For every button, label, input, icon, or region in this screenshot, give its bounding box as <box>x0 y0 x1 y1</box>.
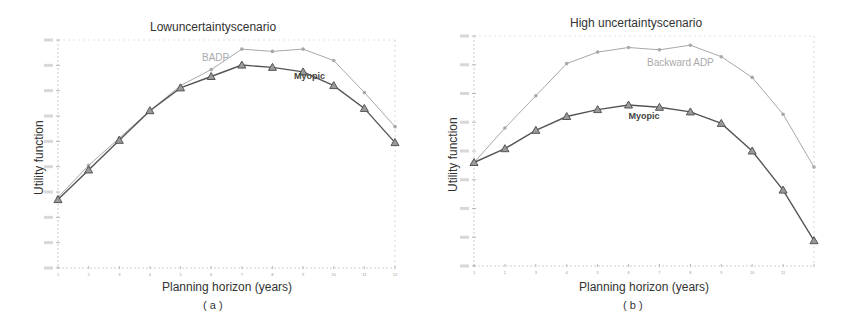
y-tick-label <box>460 236 469 239</box>
x-tick-label: 6 <box>210 272 213 277</box>
x-tick-label: 4 <box>149 272 152 277</box>
triangle-marker-icon <box>810 237 818 244</box>
y-tick-label <box>460 63 469 66</box>
dot-marker-icon <box>596 50 600 54</box>
dot-marker-icon <box>240 47 244 51</box>
panel-caption: ( a ) <box>203 299 223 311</box>
plot-area: 1234567891011Backward ADPMyopic <box>420 0 846 328</box>
y-tick-label <box>460 207 469 210</box>
series-line-myopic <box>474 105 814 241</box>
dot-marker-icon <box>689 43 693 47</box>
dot-marker-icon <box>271 50 275 54</box>
dot-marker-icon <box>719 55 723 59</box>
series-label-myopic: Myopic <box>629 111 660 121</box>
plot-area: 123456789101112BADPMyopic <box>0 0 420 328</box>
x-tick-label: 10 <box>750 270 755 275</box>
dot-marker-icon <box>363 91 367 95</box>
panel-caption: ( b ) <box>623 299 643 311</box>
y-tick-label <box>460 265 469 268</box>
y-tick-label <box>44 89 53 92</box>
y-tick-label <box>460 121 469 124</box>
y-axis-label: Utility function <box>32 120 46 195</box>
x-tick-label: 3 <box>118 272 121 277</box>
x-tick-label: 5 <box>597 270 600 275</box>
x-tick-label: 11 <box>781 270 786 275</box>
dot-marker-icon <box>565 62 569 66</box>
x-tick-label: 2 <box>504 270 507 275</box>
x-tick-label: 7 <box>658 270 661 275</box>
x-tick-label: 12 <box>393 272 398 277</box>
x-tick-label: 5 <box>179 272 182 277</box>
dot-marker-icon <box>627 46 631 50</box>
x-tick-label: 11 <box>362 272 367 277</box>
y-tick-label <box>460 92 469 95</box>
y-tick-label <box>44 115 53 118</box>
y-tick-label <box>44 216 53 219</box>
dot-marker-icon <box>332 59 336 63</box>
triangle-marker-icon <box>501 145 509 152</box>
x-axis-label: Planning horizon (years) <box>162 280 292 294</box>
series-line-myopic <box>58 65 395 200</box>
x-tick-label: 2 <box>88 272 91 277</box>
x-tick-label: 9 <box>302 272 305 277</box>
dot-marker-icon <box>781 112 785 116</box>
chart-panel-a: Lowuncertaintyscenario 123456789101112BA… <box>0 0 420 328</box>
dot-marker-icon <box>658 48 662 52</box>
x-tick-label: 7 <box>241 272 244 277</box>
x-tick-label: 9 <box>720 270 723 275</box>
y-tick-label <box>44 267 53 270</box>
dot-marker-icon <box>534 94 538 98</box>
chart-panel-b: High uncertaintyscenario 1234567891011Ba… <box>420 0 846 328</box>
dot-marker-icon <box>301 47 305 51</box>
series-label-myopic: Myopic <box>294 71 325 81</box>
dot-marker-icon <box>503 126 507 130</box>
triangle-marker-icon <box>238 61 246 68</box>
x-tick-label: 1 <box>473 270 476 275</box>
dot-marker-icon <box>209 68 213 72</box>
triangle-marker-icon <box>625 101 633 108</box>
x-axis-label: Planning horizon (years) <box>579 280 709 294</box>
y-tick-label <box>460 35 469 38</box>
y-tick-label <box>460 150 469 153</box>
y-tick-label <box>44 64 53 67</box>
x-tick-label: 6 <box>627 270 630 275</box>
x-tick-label: 1 <box>57 272 60 277</box>
x-tick-label: 3 <box>535 270 538 275</box>
x-tick-label: 8 <box>271 272 274 277</box>
x-tick-label: 8 <box>689 270 692 275</box>
series-label-badp: BADP <box>202 52 230 63</box>
series-label-backward-adp: Backward ADP <box>647 57 714 68</box>
y-tick-label <box>460 178 469 181</box>
y-axis-label: Utility function <box>446 117 460 192</box>
y-tick-label <box>44 39 53 42</box>
dot-marker-icon <box>750 76 754 80</box>
x-tick-label: 10 <box>332 272 337 277</box>
dot-marker-icon <box>812 165 816 169</box>
y-tick-label <box>44 241 53 244</box>
dot-marker-icon <box>393 125 397 129</box>
x-tick-label: 4 <box>566 270 569 275</box>
